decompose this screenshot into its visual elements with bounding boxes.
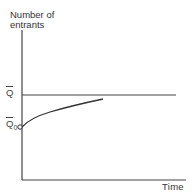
- tick-q-bar: Q: [6, 86, 13, 98]
- x-axis-label: Time: [162, 181, 184, 192]
- tick-q-bar-label: Q: [6, 87, 13, 98]
- entrants-curve: [22, 99, 103, 127]
- chart-plot: [0, 0, 192, 194]
- tick-q-bar-0-subscript: 0: [13, 124, 17, 131]
- tick-q-bar-0: Q0: [6, 117, 17, 131]
- start-point-marker: [18, 125, 22, 129]
